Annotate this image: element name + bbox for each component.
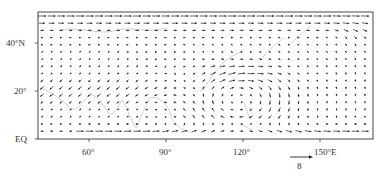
y-tick-label-20: 20°: [14, 86, 27, 96]
axis-ticks: [35, 43, 320, 142]
y-tick-label-eq: EQ: [15, 134, 27, 144]
scale-vector-label: 8: [297, 161, 302, 171]
x-tick-label-120: 120°: [233, 147, 250, 157]
map-frame: [38, 12, 373, 139]
x-tick-label-60: 60°: [82, 147, 95, 157]
y-tick-label-40n: 40°N: [6, 38, 25, 48]
wind-vectors: [38, 15, 369, 132]
x-tick-label-90: 90°: [159, 147, 172, 157]
scale-arrow-icon: [290, 155, 313, 158]
x-tick-label-150e: 150°E: [314, 147, 337, 157]
